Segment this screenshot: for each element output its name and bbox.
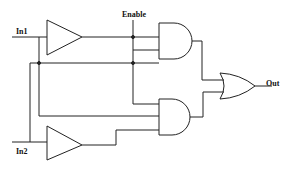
- circuit-diagram: [0, 0, 291, 172]
- out-label: Out: [266, 80, 279, 88]
- or-gate: [220, 73, 255, 99]
- enable-label: Enable: [122, 11, 146, 19]
- in1-label: In1: [16, 28, 28, 36]
- buffer1-gate: [47, 20, 82, 55]
- and1-gate: [159, 23, 192, 59]
- enable-wire: [133, 20, 159, 104]
- buffer2-gate: [47, 126, 82, 160]
- and2-gate: [159, 99, 190, 135]
- in2-label: In2: [16, 148, 28, 156]
